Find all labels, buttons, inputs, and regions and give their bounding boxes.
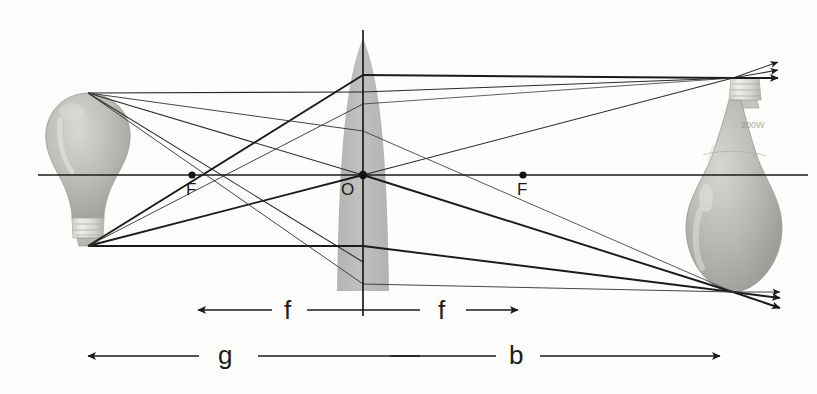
svg-text:200W: 200W: [741, 120, 765, 130]
optical-center-label: O: [341, 181, 354, 198]
focal-point-left-label: F: [186, 181, 196, 198]
light-bulb-object: [46, 93, 130, 246]
light-bulb-image: 200W: [686, 78, 782, 292]
optical-center-dot: [359, 171, 367, 179]
ray-bundle-object-top: [88, 62, 778, 262]
focal-length-left-label: f: [284, 297, 291, 323]
focal-length-right-label: f: [438, 297, 445, 323]
image-distance-label: b: [509, 342, 523, 368]
optics-diagram-svg: 200W: [0, 0, 817, 394]
ray-diagram-canvas: 200W: [0, 0, 817, 394]
focal-point-right-label: F: [517, 181, 527, 198]
focal-point-right-dot: [519, 171, 526, 178]
object-distance-label: g: [218, 342, 232, 368]
focal-point-left-dot: [188, 171, 195, 178]
